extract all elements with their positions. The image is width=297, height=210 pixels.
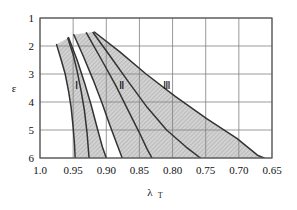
chart-figure: 123456 1.00.950.900.850.800.750.700.65 Ⅰ… — [0, 0, 297, 210]
x-tick-label: 0.80 — [163, 164, 183, 176]
x-tick-label: 0.75 — [196, 164, 216, 176]
y-tick-label: 6 — [29, 152, 35, 164]
x-tick-label: 0.95 — [64, 164, 84, 176]
lambda-epsilon-chart: 123456 1.00.950.900.850.800.750.700.65 Ⅰ… — [0, 0, 297, 210]
x-axis-label-subscript: T — [158, 191, 163, 200]
x-tick-label: 0.70 — [229, 164, 249, 176]
y-tick-label: 1 — [29, 12, 35, 24]
x-tick-label: 0.85 — [130, 164, 150, 176]
region-label: Ⅰ — [75, 79, 78, 91]
region-label: Ⅱ — [119, 79, 124, 91]
y-axis-label: ε — [12, 82, 17, 94]
x-tick-label: 0.65 — [262, 164, 282, 176]
y-tick-label: 5 — [29, 124, 35, 136]
y-tick-label: 2 — [29, 40, 35, 52]
x-axis-label: λ — [147, 186, 153, 198]
x-tick-label: 1.0 — [33, 164, 47, 176]
region-label: Ⅲ — [163, 79, 171, 91]
x-tick-label: 0.90 — [97, 164, 117, 176]
y-tick-label: 3 — [29, 68, 35, 80]
y-tick-label: 4 — [29, 96, 35, 108]
